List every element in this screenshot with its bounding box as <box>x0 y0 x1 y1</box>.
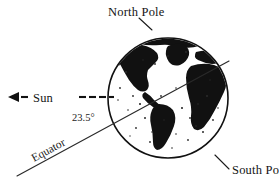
north-pole-leader-line <box>139 18 152 30</box>
sun-ray-group <box>8 92 114 102</box>
diagram-canvas: North Pole Sun 23.5° Equator South Pole <box>0 0 279 183</box>
equator-label: Equator <box>29 136 67 165</box>
globe-group <box>108 33 233 169</box>
sun-label: Sun <box>33 91 54 105</box>
south-pole-leader-line <box>215 155 229 169</box>
south-pole-label: South Pole <box>232 163 279 177</box>
earth-tilt-diagram: North Pole Sun 23.5° Equator South Pole <box>0 0 279 183</box>
north-pole-label: North Pole <box>108 5 165 19</box>
sun-arrow-icon <box>8 92 19 102</box>
tilt-angle-label: 23.5° <box>72 112 95 123</box>
